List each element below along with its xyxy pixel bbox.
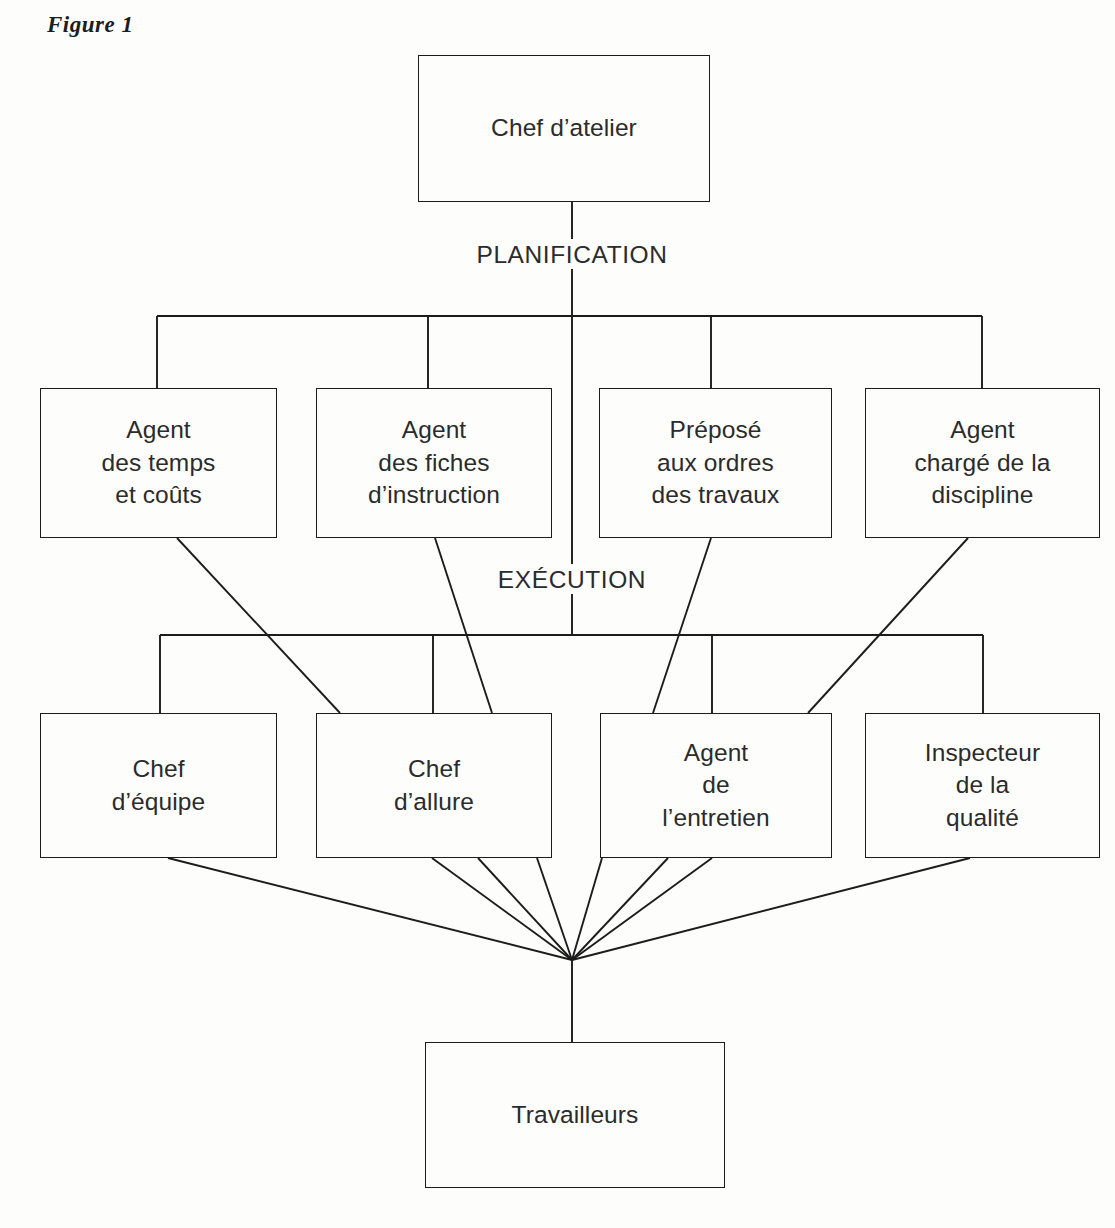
node-agent-temps-couts-label: Agent des temps et coûts bbox=[102, 414, 216, 512]
diagonal-fiches-to-allure bbox=[435, 538, 492, 713]
figure-canvas: Figure 1 bbox=[0, 0, 1115, 1228]
node-travailleurs[interactable]: Travailleurs bbox=[425, 1042, 725, 1188]
figure-caption: Figure 1 bbox=[47, 12, 133, 38]
node-prepose-ordres-travaux-label: Préposé aux ordres des travaux bbox=[652, 414, 780, 512]
node-agent-discipline-label: Agent chargé de la discipline bbox=[914, 414, 1050, 512]
fan-entretien-b bbox=[572, 858, 668, 960]
node-travailleurs-label: Travailleurs bbox=[512, 1099, 639, 1132]
fan-inspecteur bbox=[572, 858, 970, 960]
diagonal-discipline-to-entretien bbox=[808, 538, 968, 713]
node-agent-entretien-label: Agent de l’entretien bbox=[662, 737, 769, 835]
diagonal-temps-to-allure bbox=[177, 538, 340, 713]
fan-chef-allure-a bbox=[432, 858, 572, 960]
node-chef-atelier[interactable]: Chef d’atelier bbox=[418, 55, 710, 202]
fan-chef-equipe bbox=[168, 858, 572, 960]
node-chef-equipe-label: Chef d’équipe bbox=[112, 753, 205, 818]
fan-entretien-a bbox=[572, 858, 602, 960]
node-inspecteur-qualite-label: Inspecteur de la qualité bbox=[925, 737, 1040, 835]
node-agent-temps-couts[interactable]: Agent des temps et coûts bbox=[40, 388, 277, 538]
band-label-planification: PLANIFICATION bbox=[467, 241, 676, 269]
diagonal-ordres-to-entretien bbox=[653, 538, 711, 713]
node-chef-equipe[interactable]: Chef d’équipe bbox=[40, 713, 277, 858]
node-agent-fiches-instruction-label: Agent des fiches d’instruction bbox=[368, 414, 500, 512]
node-agent-entretien[interactable]: Agent de l’entretien bbox=[600, 713, 832, 858]
fan-chef-allure-b bbox=[478, 858, 572, 960]
node-chef-allure[interactable]: Chef d’allure bbox=[316, 713, 552, 858]
node-prepose-ordres-travaux[interactable]: Préposé aux ordres des travaux bbox=[599, 388, 832, 538]
node-agent-fiches-instruction[interactable]: Agent des fiches d’instruction bbox=[316, 388, 552, 538]
node-agent-discipline[interactable]: Agent chargé de la discipline bbox=[865, 388, 1100, 538]
fan-entretien-c bbox=[572, 858, 712, 960]
fan-chef-allure-c bbox=[537, 858, 572, 960]
band-label-execution: EXÉCUTION bbox=[489, 566, 655, 594]
node-inspecteur-qualite[interactable]: Inspecteur de la qualité bbox=[865, 713, 1100, 858]
node-chef-atelier-label: Chef d’atelier bbox=[491, 112, 637, 145]
node-chef-allure-label: Chef d’allure bbox=[394, 753, 474, 818]
